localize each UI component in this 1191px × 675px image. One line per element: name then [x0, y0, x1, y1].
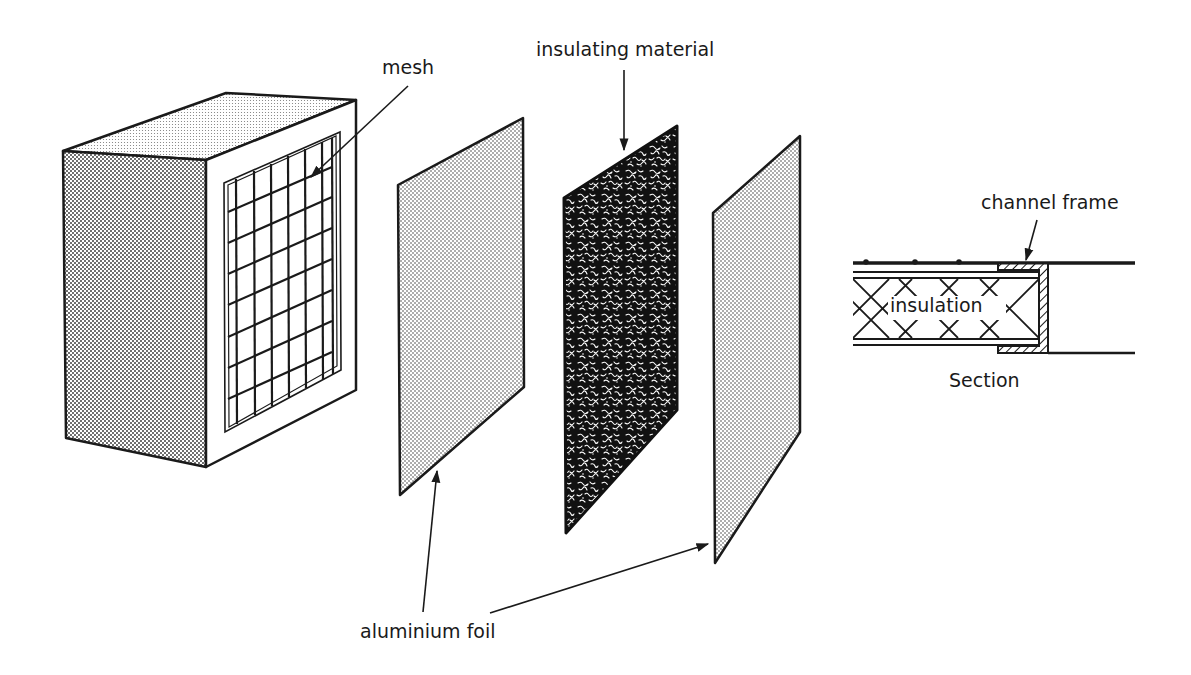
box-assembly	[63, 93, 356, 467]
aluminium-foil-leader-arrow-1	[423, 471, 437, 612]
channel-frame-label: channel frame	[981, 193, 1119, 212]
channel-frame-leader-arrow	[1026, 220, 1037, 260]
diagram-canvas: mesh insulating material aluminium foil …	[0, 0, 1191, 675]
aluminium-foil-leader-arrow-2	[490, 544, 708, 613]
box-side-face	[63, 151, 206, 467]
diagram-svg	[0, 0, 1191, 675]
insulation-label: insulation	[890, 296, 983, 315]
mesh-label: mesh	[382, 58, 434, 77]
section-detail	[830, 220, 1135, 353]
insulating-material-panel	[564, 126, 677, 533]
aluminium-foil-label: aluminium foil	[360, 622, 496, 641]
aluminium-foil-sheet-back	[713, 136, 800, 563]
aluminium-foil-sheet-front	[398, 118, 524, 495]
section-label: Section	[949, 371, 1020, 390]
insulating-material-label: insulating material	[536, 40, 714, 59]
